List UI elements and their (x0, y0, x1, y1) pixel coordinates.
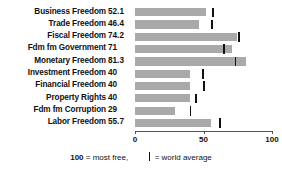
category-label: Fiscal Freedom (47, 31, 106, 40)
chart-row: Business Freedom52.1 (0, 7, 282, 19)
value-bar (135, 57, 246, 65)
category-label: Fdm fm Corruption (34, 105, 106, 114)
category-label: Monetary Freedom (34, 56, 106, 65)
x-axis-tick (204, 131, 205, 134)
legend-most-free-text: = most free, (86, 153, 128, 162)
x-axis-tick (272, 131, 273, 134)
value-label: 40 (108, 68, 132, 77)
world-average-tick (211, 20, 213, 30)
bar-track (135, 70, 272, 78)
bar-track (135, 20, 272, 28)
chart-row: Property Rights40 (0, 93, 282, 105)
category-label: Trade Freedom (49, 19, 106, 28)
legend-most-free-value: 100 (70, 153, 83, 162)
world-average-tick (235, 57, 237, 67)
world-average-tick (223, 44, 225, 54)
chart-row: Fdm fm Government71 (0, 44, 282, 56)
value-label: 40 (108, 93, 132, 102)
bar-track (135, 119, 272, 127)
category-label: Property Rights (46, 93, 106, 102)
chart-legend: 100 = most free, = world average (0, 152, 282, 162)
value-bar (135, 119, 211, 127)
chart-row: Monetary Freedom81.3 (0, 56, 282, 68)
bar-track (135, 107, 272, 115)
value-bar (135, 94, 190, 102)
world-average-tick (238, 32, 240, 42)
chart-row: Financial Freedom40 (0, 81, 282, 93)
legend-world-average-text: = world average (155, 153, 212, 162)
world-average-tick (195, 94, 197, 104)
economic-freedom-chart: Business Freedom52.1Trade Freedom46.4Fis… (0, 0, 282, 172)
bar-track (135, 94, 272, 102)
value-bar (135, 20, 199, 28)
value-bar (135, 70, 190, 78)
category-label: Labor Freedom (48, 117, 106, 126)
value-bar (135, 82, 190, 90)
x-axis-tick-label: 0 (133, 135, 137, 144)
bar-track (135, 8, 272, 16)
value-label: 46.4 (108, 19, 132, 28)
value-label: 71 (108, 43, 132, 52)
chart-row: Fdm fm Corruption29 (0, 105, 282, 117)
x-axis-tick-label: 100 (265, 135, 278, 144)
bar-track (135, 45, 272, 53)
world-average-tick (212, 8, 214, 18)
world-average-tick (202, 69, 204, 79)
world-average-tick (219, 118, 221, 128)
bar-track (135, 82, 272, 90)
value-label: 52.1 (108, 7, 132, 16)
chart-rows: Business Freedom52.1Trade Freedom46.4Fis… (0, 7, 282, 130)
x-axis-tick (135, 131, 136, 134)
bar-track (135, 33, 272, 41)
world-average-tick (203, 81, 205, 91)
world-average-tick (190, 106, 192, 116)
value-bar (135, 107, 175, 115)
value-label: 81.3 (108, 56, 132, 65)
value-label: 74.2 (108, 31, 132, 40)
category-label: Fdm fm Government (28, 43, 106, 52)
value-label: 29 (108, 105, 132, 114)
value-bar (135, 33, 237, 41)
category-label: Business Freedom (34, 7, 106, 16)
value-bar (135, 8, 206, 16)
category-label: Financial Freedom (35, 80, 106, 89)
value-bar (135, 45, 232, 53)
value-label: 55.7 (108, 117, 132, 126)
chart-row: Labor Freedom55.7 (0, 118, 282, 130)
bar-track (135, 57, 272, 65)
value-label: 40 (108, 80, 132, 89)
chart-row: Fiscal Freedom74.2 (0, 32, 282, 44)
category-label: Investment Freedom (28, 68, 106, 77)
chart-row: Investment Freedom40 (0, 68, 282, 80)
x-axis-tick-label: 50 (199, 135, 208, 144)
chart-row: Trade Freedom46.4 (0, 19, 282, 31)
world-average-marker-icon (149, 152, 151, 161)
